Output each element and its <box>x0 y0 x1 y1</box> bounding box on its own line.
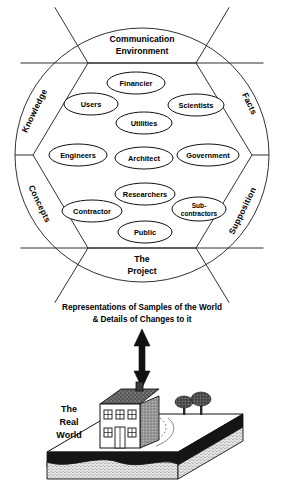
node-researchers[interactable]: Researchers <box>115 183 175 205</box>
node-users[interactable]: Users <box>64 93 118 115</box>
node-contractor-label: Contractor <box>73 207 111 216</box>
bottom-band-label: The Project <box>127 254 156 276</box>
node-users-label: Users <box>81 100 102 109</box>
diagram-canvas: Communication Environment The Project Kn… <box>0 0 284 492</box>
node-contractor[interactable]: Contractor <box>62 200 122 222</box>
sector-label-supposition: Supposition <box>227 185 258 236</box>
divider-se <box>196 248 229 303</box>
house-upper-windows <box>104 410 136 419</box>
node-subcontractors[interactable]: Sub- contractors <box>172 197 226 221</box>
divider-nw <box>55 7 88 63</box>
top-band-label: Communication Environment <box>110 34 175 56</box>
node-researchers-label: Researchers <box>123 190 167 199</box>
communication-environment-line1: Communication <box>110 34 175 44</box>
node-utilities-label: Utilities <box>131 119 158 128</box>
knowledge-label: Knowledge <box>19 87 49 134</box>
facts-label: Facts <box>240 91 259 116</box>
supposition-label: Supposition <box>227 185 258 236</box>
node-government-label: Government <box>186 151 230 160</box>
divider-ne <box>196 7 229 63</box>
node-architect-label: Architect <box>128 154 161 163</box>
node-financier[interactable]: Financier <box>107 72 165 94</box>
the-project-line2: Project <box>127 266 156 276</box>
tree-left <box>175 396 193 415</box>
node-architect[interactable]: Architect <box>115 147 173 169</box>
tree-right <box>191 392 211 415</box>
concepts-label: Concepts <box>26 183 53 224</box>
node-subcontractors-shape[interactable] <box>172 197 226 221</box>
node-engineers-label: Engineers <box>60 151 96 160</box>
node-financier-label: Financier <box>120 79 153 88</box>
house-side-wall <box>140 396 159 448</box>
the-project-line1: The <box>134 254 149 264</box>
real-world-line1: The <box>61 404 77 414</box>
caption-line1: Representations of Samples of the World <box>62 303 222 312</box>
node-subcontractors-label-line1: Sub- <box>192 202 207 209</box>
real-world-illustration: The Real World <box>47 382 243 479</box>
node-scientists-label: Scientists <box>179 101 214 110</box>
real-world-line2: Real <box>59 417 78 427</box>
sector-label-knowledge: Knowledge <box>19 87 49 134</box>
node-public-label: Public <box>134 228 156 237</box>
real-world-label: The Real World <box>56 404 81 440</box>
node-utilities[interactable]: Utilities <box>116 112 172 134</box>
communication-environment-line2: Environment <box>116 46 169 56</box>
node-public[interactable]: Public <box>118 221 172 243</box>
real-world-line3: World <box>56 430 81 440</box>
stakeholder-nodes: Financier Users Scientists Utilities Eng… <box>49 72 239 243</box>
house-door <box>115 427 125 448</box>
node-government[interactable]: Government <box>177 144 239 166</box>
double-arrow-shape <box>134 329 150 388</box>
house-chimney <box>136 382 143 391</box>
node-subcontractors-label-line2: contractors <box>181 210 218 217</box>
caption-line2: & Details of Changes to it <box>92 315 191 324</box>
vertical-double-arrow-icon <box>134 329 150 388</box>
node-engineers[interactable]: Engineers <box>49 144 107 166</box>
sector-label-concepts: Concepts <box>26 183 53 224</box>
sector-label-facts: Facts <box>240 91 259 116</box>
node-scientists[interactable]: Scientists <box>168 94 224 116</box>
divider-sw <box>55 248 88 303</box>
caption-block: Representations of Samples of the World … <box>62 303 222 324</box>
diagram-svg: Communication Environment The Project Kn… <box>0 0 284 492</box>
